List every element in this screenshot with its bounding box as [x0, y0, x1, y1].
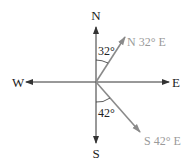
angle-label-42: 42° — [98, 106, 115, 120]
bearing-label-n32e: N 32° E — [127, 35, 166, 49]
angle-arc-32 — [96, 60, 108, 63]
west-label: W — [12, 75, 25, 90]
angle-label-32: 32° — [98, 44, 115, 58]
north-label: N — [91, 8, 101, 23]
compass-diagram: N S E W 32° 42° N 32° E S 42° E — [0, 0, 190, 165]
east-label: E — [172, 75, 180, 90]
bearing-label-s42e: S 42° E — [144, 134, 181, 148]
south-label: S — [92, 146, 99, 161]
angle-arc-42 — [96, 98, 110, 102]
